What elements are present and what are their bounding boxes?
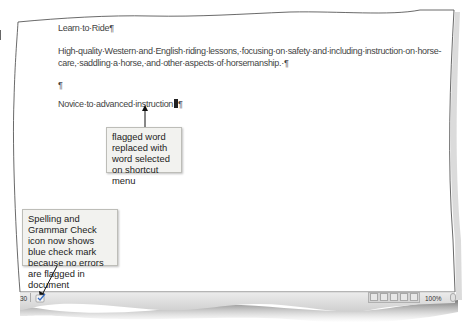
document-heading[interactable]: Learn·to·Ride¶ (58, 23, 114, 33)
callout-spell-check: Spelling and Grammar Check icon now show… (22, 209, 118, 266)
document-empty-paragraph[interactable]: ¶ (58, 80, 63, 90)
document-paragraph-line-2[interactable]: care,·saddling·a·horse,·and·other·aspect… (58, 58, 288, 68)
callout-arrow-up (140, 105, 150, 129)
view-web-layout-button[interactable] (390, 293, 398, 301)
view-print-layout-button[interactable] (370, 293, 378, 301)
document-paragraph-line-1[interactable]: High-quality·Western·and·English·riding·… (58, 46, 441, 56)
status-divider (30, 293, 31, 302)
zoom-out-button[interactable] (450, 293, 456, 302)
zoom-level[interactable]: 100% (425, 295, 442, 302)
status-page-indicator: 30 (20, 295, 27, 302)
view-full-screen-reading-button[interactable] (380, 293, 388, 301)
word-document-window: Learn·to·Ride¶ High-quality·Western·and·… (0, 0, 465, 324)
left-edge-marker (0, 30, 1, 40)
callout-replaced-word: flagged word replaced with word selected… (106, 127, 182, 173)
replaced-word-text[interactable]: Novice·to·advanced·instruction (58, 99, 173, 109)
paragraph-mark: ¶ (178, 99, 183, 109)
view-draft-button[interactable] (410, 293, 418, 301)
spelling-grammar-check-icon[interactable] (35, 293, 47, 303)
view-outline-button[interactable] (400, 293, 408, 301)
document-replaced-word-line[interactable]: Novice·to·advanced·instruction¶ (58, 99, 183, 109)
